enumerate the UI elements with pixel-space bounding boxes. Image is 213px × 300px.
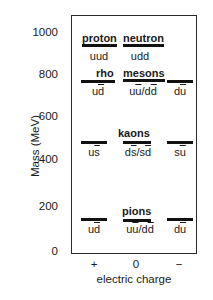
mesons-label: mesons: [123, 67, 165, 82]
kaon-plus-level: [81, 141, 107, 144]
kaon-plus-quarks: us: [81, 146, 107, 158]
rho-plus-quarks: ud: [81, 85, 115, 97]
kaon-zero-level: [123, 141, 151, 144]
pion-zero-level: [123, 219, 151, 222]
pion-plus-quarks: ud: [81, 223, 107, 235]
kaon-minus-level: [167, 141, 193, 144]
proton-quarks: uud: [82, 50, 116, 62]
neutron-label: neutron: [123, 32, 164, 47]
proton-label: proton: [82, 32, 117, 47]
y-tick-0: 0: [18, 245, 58, 257]
pion-plus-level: [81, 218, 107, 221]
kaon-minus-quarks: su: [167, 146, 193, 158]
rho-minus-quarks: du: [167, 85, 193, 97]
neutron-quarks: udd: [123, 50, 157, 62]
pions-label: pions: [122, 205, 151, 217]
y-tick-800: 800: [18, 68, 58, 80]
y-tick-1000: 1000: [18, 26, 58, 38]
pion-minus-quarks: du: [167, 223, 193, 235]
kaons-label: kaons: [118, 127, 150, 139]
x-tick-minus: −: [169, 258, 189, 270]
y-tick-200: 200: [18, 200, 58, 212]
kaon-zero-quarks: ds/sd: [116, 146, 160, 158]
pion-minus-level: [167, 218, 193, 221]
y-axis-label: Mass (MeV): [29, 101, 41, 191]
x-tick-zero: 0: [126, 258, 146, 270]
rho-label: rho: [96, 67, 114, 79]
pion-zero-quarks: uu/dd: [116, 223, 164, 235]
rho-minus-level: [167, 80, 193, 83]
x-tick-plus: +: [84, 258, 104, 270]
rho-plus-level: [81, 80, 115, 83]
rho-zero-quarks: uu/dd: [118, 85, 168, 97]
x-axis-label: electric charge: [71, 273, 197, 285]
